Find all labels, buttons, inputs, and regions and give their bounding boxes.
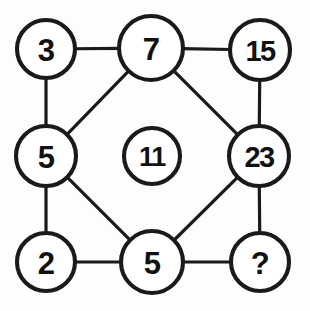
node-bottom-right: ? bbox=[231, 233, 289, 291]
node-label-bottom-left: 2 bbox=[38, 246, 55, 281]
nodes-group: 37155112325? bbox=[16, 16, 290, 293]
connector-edge-23-5b bbox=[173, 176, 239, 241]
node-bottom-left: 2 bbox=[17, 233, 75, 291]
node-label-middle-left: 5 bbox=[38, 140, 55, 175]
node-label-center: 11 bbox=[139, 142, 166, 172]
connector-edge-7-15 bbox=[181, 49, 231, 50]
node-label-top-center: 7 bbox=[143, 32, 160, 67]
connector-edge-7-5l bbox=[66, 70, 130, 136]
node-top-right: 15 bbox=[230, 20, 290, 80]
node-middle-left: 5 bbox=[16, 126, 76, 186]
node-label-top-right: 15 bbox=[245, 35, 276, 67]
number-circle-puzzle-figure: 37155112325? bbox=[0, 0, 310, 311]
node-label-top-left: 3 bbox=[38, 33, 55, 68]
node-label-middle-right: 23 bbox=[244, 141, 275, 173]
connector-edge-5l-5b bbox=[66, 176, 131, 241]
connector-edge-7-23 bbox=[173, 70, 239, 136]
node-middle-right: 23 bbox=[229, 126, 289, 186]
node-top-left: 3 bbox=[17, 20, 75, 78]
node-label-bottom-center: 5 bbox=[144, 246, 161, 281]
node-label-bottom-right: ? bbox=[251, 246, 269, 281]
node-top-center: 7 bbox=[119, 16, 183, 80]
puzzle-diagram: 37155112325? bbox=[0, 0, 310, 311]
node-bottom-center: 5 bbox=[121, 231, 183, 293]
node-center: 11 bbox=[124, 128, 180, 184]
